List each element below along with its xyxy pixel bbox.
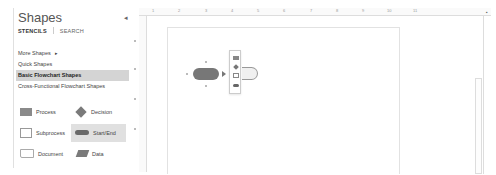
connection-arrow-left-icon[interactable]: [186, 73, 188, 75]
shape-start-end[interactable]: Start/End: [71, 124, 126, 142]
decision-icon: [75, 106, 86, 117]
quick-shapes-menu: [229, 50, 241, 94]
document-icon: [20, 149, 34, 158]
tab-search[interactable]: SEARCH: [60, 28, 84, 34]
vertical-scrollbar[interactable]: [483, 16, 491, 174]
ruler-corner-icon[interactable]: ▪: [486, 9, 492, 15]
shape-data[interactable]: Data: [71, 145, 126, 163]
drawing-canvas[interactable]: [148, 17, 491, 174]
subprocess-icon: [20, 128, 32, 138]
pane-tabs: STENCILS SEARCH: [18, 27, 84, 34]
shape-label: Decision: [91, 109, 112, 115]
process-icon: [20, 108, 32, 116]
stencil-quick-shapes[interactable]: Quick Shapes: [16, 59, 132, 70]
start-end-icon: [75, 130, 89, 135]
subprocess-icon[interactable]: [233, 73, 239, 78]
horizontal-ruler: 1 2 3 4 5 6 7 8 9 10 11: [139, 8, 491, 16]
ruler-label: 5: [257, 8, 259, 13]
shape-external-data[interactable]: External Data: [71, 170, 126, 175]
scrollbar-thumb[interactable]: [475, 78, 482, 174]
drawing-page[interactable]: [167, 27, 400, 174]
shape-decision[interactable]: Decision: [71, 103, 126, 121]
stencil-basic-flowchart[interactable]: Basic Flowchart Shapes: [16, 70, 129, 81]
ruler-label: 6: [283, 8, 285, 13]
preview-shape: [242, 67, 258, 80]
shapes-grid: Process Decision Subprocess Start/End: [16, 101, 132, 174]
vertical-ruler: [139, 16, 147, 172]
scroll-dot: [134, 40, 136, 42]
shape-process[interactable]: Process: [16, 103, 71, 121]
ruler-label: 2: [178, 8, 180, 13]
tab-stencils[interactable]: STENCILS: [18, 28, 47, 34]
connection-arrow-up-icon[interactable]: [205, 61, 207, 63]
ruler-label: 8: [336, 8, 338, 13]
scroll-dot: [134, 98, 136, 100]
stencil-cross-functional[interactable]: Cross-Functional Flowchart Shapes: [16, 81, 132, 92]
shape-label: Data: [92, 151, 104, 157]
process-icon[interactable]: [233, 56, 239, 60]
shape-label: Process: [36, 109, 56, 115]
scroll-dot: [134, 68, 136, 70]
shape-label: Document: [38, 151, 63, 157]
ruler-label: 11: [413, 8, 417, 13]
pane-title: Shapes: [18, 10, 62, 25]
start-end-icon[interactable]: [233, 84, 239, 87]
shapes-pane: Shapes ◂ STENCILS SEARCH More Shapes▸ Qu…: [13, 8, 131, 168]
visio-window: Shapes ◂ STENCILS SEARCH More Shapes▸ Qu…: [0, 0, 496, 174]
shape-document[interactable]: Document: [16, 145, 71, 163]
start-end-shape[interactable]: [193, 68, 219, 80]
ruler-label: 3: [205, 8, 207, 13]
data-icon: [76, 150, 90, 157]
stencil-list: More Shapes▸ Quick Shapes Basic Flowchar…: [16, 48, 132, 92]
ruler-label: 7: [310, 8, 312, 13]
shape-subprocess[interactable]: Subprocess: [16, 124, 71, 142]
chevron-right-icon: ▸: [55, 50, 58, 56]
connection-arrow-right-icon[interactable]: [222, 71, 226, 77]
stencil-label: More Shapes: [18, 50, 51, 56]
ruler-label: 4: [231, 8, 233, 13]
connection-arrow-down-icon[interactable]: [205, 85, 207, 87]
decision-icon[interactable]: [233, 64, 239, 70]
scroll-dot: [134, 128, 136, 130]
stencil-more-shapes[interactable]: More Shapes▸: [16, 48, 132, 59]
shape-label: Start/End: [93, 130, 116, 136]
chevron-left-icon[interactable]: ◂: [124, 14, 128, 22]
tab-divider: [53, 27, 54, 34]
ruler-label: 10: [387, 8, 391, 13]
shape-label: Subprocess: [36, 130, 65, 136]
shape-database[interactable]: Database: [16, 170, 71, 175]
ruler-label: 1: [152, 8, 154, 13]
pane-scrollbar[interactable]: [131, 20, 139, 170]
ruler-label: 9: [362, 8, 364, 13]
